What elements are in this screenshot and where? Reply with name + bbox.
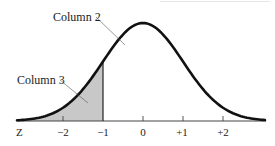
tick-label-0: 0 (140, 126, 146, 138)
normal-curve-diagram: Column 2 Column 3 Z −2 −1 0 +1 +2 (0, 0, 275, 146)
normal-curve (17, 23, 265, 120)
tick-label-plus-1: +1 (176, 126, 188, 138)
tick-label-plus-2: +2 (217, 126, 229, 138)
shaded-tail-area (17, 62, 103, 121)
tick-label-minus-2: −2 (57, 126, 69, 138)
column3-label: Column 3 (17, 73, 65, 87)
z-axis-label: Z (16, 126, 23, 138)
column2-label: Column 2 (53, 10, 101, 24)
tick-label-minus-1: −1 (97, 126, 109, 138)
axis-tick-labels: −2 −1 0 +1 +2 (57, 126, 229, 138)
